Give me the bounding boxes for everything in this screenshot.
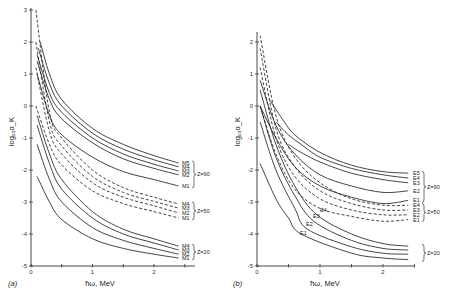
panel-label: (b)	[233, 279, 243, 288]
curve-m3	[37, 125, 179, 250]
y-tick-label: -1	[248, 135, 254, 141]
brace	[192, 202, 196, 220]
brace	[422, 171, 426, 202]
brace	[422, 203, 426, 221]
y-tick-label: -4	[22, 231, 28, 237]
curve-m2	[37, 61, 179, 175]
x-tick-label: 0	[29, 269, 33, 275]
y-tick-label: 0	[250, 103, 254, 109]
curve-e3	[260, 48, 408, 210]
z-group-label: Z=50	[427, 209, 440, 215]
curve-e2	[260, 68, 408, 216]
y-tick-label: -5	[22, 263, 28, 269]
y-tick-label: 3	[24, 7, 28, 13]
curve-e2	[260, 80, 408, 192]
curve-label: E2	[413, 188, 420, 194]
y-tick-label: -5	[248, 263, 254, 269]
y-tick-label: -1	[22, 135, 28, 141]
brace	[192, 244, 196, 260]
inline-curve-label: E4	[320, 207, 327, 213]
z-group-label: Z=90	[427, 184, 440, 190]
y-tick-label: -2	[248, 167, 254, 173]
curve-label: M1	[182, 183, 190, 189]
curve-label: M1	[182, 255, 190, 261]
inline-curve-label: E3	[313, 213, 320, 219]
curve-label: E1	[413, 217, 420, 223]
inline-curve-label: E2	[306, 221, 313, 227]
y-tick-label: 2	[250, 39, 254, 45]
curve-m4	[38, 48, 178, 166]
curve-m1	[36, 106, 179, 218]
y-axis-label: log₁₀α_K	[233, 117, 242, 146]
curve-m3	[37, 55, 179, 171]
y-tick-label: 2	[24, 39, 28, 45]
x-axis-label: ħω, MeV	[310, 279, 340, 288]
x-tick-label: 1	[318, 269, 322, 275]
x-tick-label: 1	[91, 269, 95, 275]
axes: 210-1-2-3-4-5012ħω, MeVlog₁₀α_K(b)	[233, 32, 415, 288]
curve-e1	[260, 164, 408, 260]
z-group-label: Z=20	[427, 250, 440, 256]
curve-label: M2	[182, 172, 190, 178]
y-axis-label: log₁₀α_K	[7, 117, 16, 146]
curve-m1	[37, 176, 179, 258]
curve-label: E3	[413, 180, 420, 186]
curve-e3	[260, 106, 408, 250]
curve-e1	[260, 106, 408, 204]
y-tick-label: -3	[22, 199, 28, 205]
x-tick-label: 2	[152, 269, 156, 275]
curve-label: M1	[182, 215, 190, 221]
y-tick-label: 1	[24, 71, 28, 77]
chart-figure: 3210-1-2-3-4-5012ħω, MeVlog₁₀α_K(a)M5M4M…	[0, 0, 451, 294]
inline-curve-label: E1	[300, 230, 307, 236]
series-group: E5E4E3E2E1Z=90	[260, 80, 440, 203]
curve-e4	[276, 122, 408, 178]
x-tick-label: 0	[255, 269, 259, 275]
y-tick-label: -2	[22, 167, 28, 173]
panel-b: 210-1-2-3-4-5012ħω, MeVlog₁₀α_K(b)E5E4E3…	[233, 32, 440, 288]
y-tick-label: 1	[250, 71, 254, 77]
y-tick-label: -3	[248, 199, 254, 205]
panel-a: 3210-1-2-3-4-5012ħω, MeVlog₁₀α_K(a)M5M4M…	[7, 7, 210, 288]
y-tick-label: -4	[248, 231, 254, 237]
brace	[192, 161, 196, 188]
z-group-label: Z=50	[197, 208, 210, 214]
z-group-label: Z=90	[197, 171, 210, 177]
curve-e2	[260, 122, 408, 254]
z-group-label: Z=20	[197, 249, 210, 255]
x-tick-label: 2	[381, 269, 385, 275]
x-axis-label: ħω, MeV	[85, 279, 115, 288]
panel-label: (a)	[8, 279, 18, 288]
y-tick-label: 0	[24, 103, 28, 109]
brace	[422, 244, 426, 261]
